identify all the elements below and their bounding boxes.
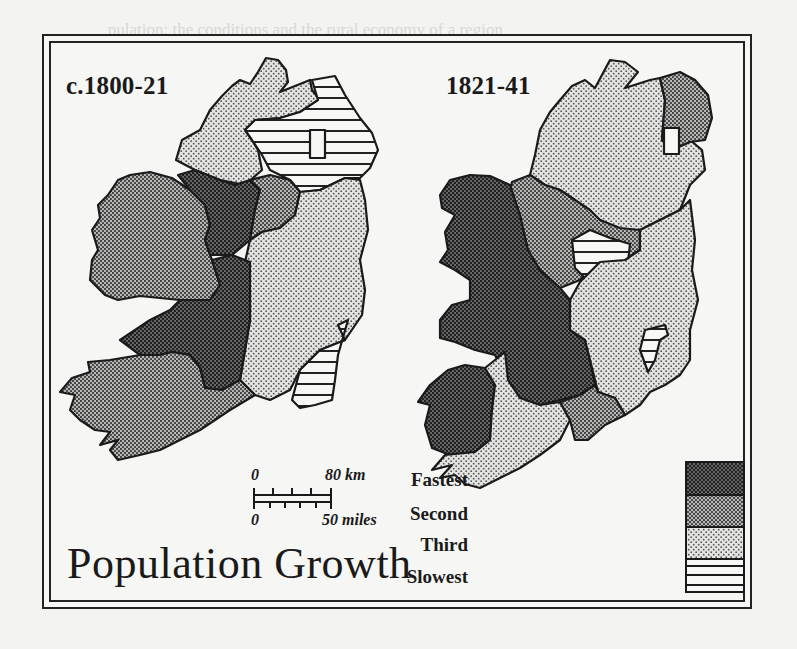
legend-swatch-third [686, 527, 744, 559]
scale-bar [254, 488, 331, 509]
figure-title: Population Growth [67, 538, 412, 589]
legend-label-fastest: Fastest [411, 469, 468, 491]
legend-swatch-second [686, 495, 744, 527]
legend-label-second: Second [410, 503, 468, 525]
map-label-1821-41: 1821-41 [446, 72, 531, 100]
legend-swatch-fastest [686, 462, 744, 495]
map-label-1800-21: c.1800-21 [66, 72, 168, 100]
lough-neagh-right [664, 128, 679, 154]
map-1800-21 [60, 58, 378, 460]
scale-km-start: 0 [251, 466, 259, 484]
region-clare-kerry [418, 365, 495, 455]
legend-swatches [685, 461, 747, 595]
legend-label-third: Third [420, 534, 468, 556]
legend-label-slowest: Slowest [407, 566, 468, 588]
scale-mi-end: 50 miles [322, 511, 377, 529]
lough-neagh-left [310, 130, 325, 158]
scale-mi-start: 0 [251, 511, 259, 529]
scale-km-end: 80 km [325, 466, 365, 484]
map-1821-41 [418, 60, 712, 488]
